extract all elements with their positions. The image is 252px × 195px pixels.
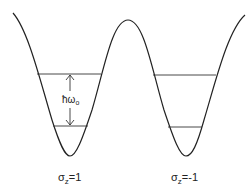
left-well-label: σz=1 [58,171,81,186]
spacing-label: ħωo [62,94,79,106]
right-well-label: σz=-1 [171,171,198,186]
double-well-diagram: ħωo σz=1 σz=-1 [0,0,252,195]
potential-curve [13,13,245,156]
